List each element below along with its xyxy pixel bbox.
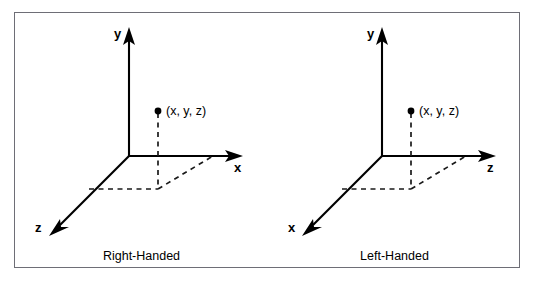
depth-axis-arrowhead <box>302 219 322 236</box>
point-coordinate-label: (x, y, z) <box>166 105 206 118</box>
vertical-axis-label: y <box>367 27 374 40</box>
horizontal-axis-label: x <box>234 161 241 174</box>
panel-caption: Right-Handed <box>15 249 268 263</box>
vertical-axis-label: y <box>114 27 121 40</box>
depth-axis-label: x <box>288 221 295 234</box>
point-marker <box>155 108 162 115</box>
axes-drawing-left-handed <box>268 13 521 269</box>
figure-border: y x z (x, y, z) Right-Handed y z x (x, y… <box>14 12 520 268</box>
projection-diagonal-line <box>158 156 213 189</box>
depth-axis-line <box>313 156 382 225</box>
point-coordinate-label: (x, y, z) <box>419 105 459 118</box>
panel-caption: Left-Handed <box>268 249 521 263</box>
depth-axis-line <box>60 156 129 225</box>
horizontal-axis-label: z <box>487 161 494 174</box>
diagram-left-handed: y z x (x, y, z) Left-Handed <box>268 13 521 267</box>
depth-axis-label: z <box>35 221 42 234</box>
projection-diagonal-line <box>411 156 466 189</box>
diagram-right-handed: y x z (x, y, z) Right-Handed <box>15 13 268 267</box>
depth-axis-arrowhead <box>49 219 69 236</box>
axes-drawing-right-handed <box>15 13 268 269</box>
point-marker <box>408 108 415 115</box>
